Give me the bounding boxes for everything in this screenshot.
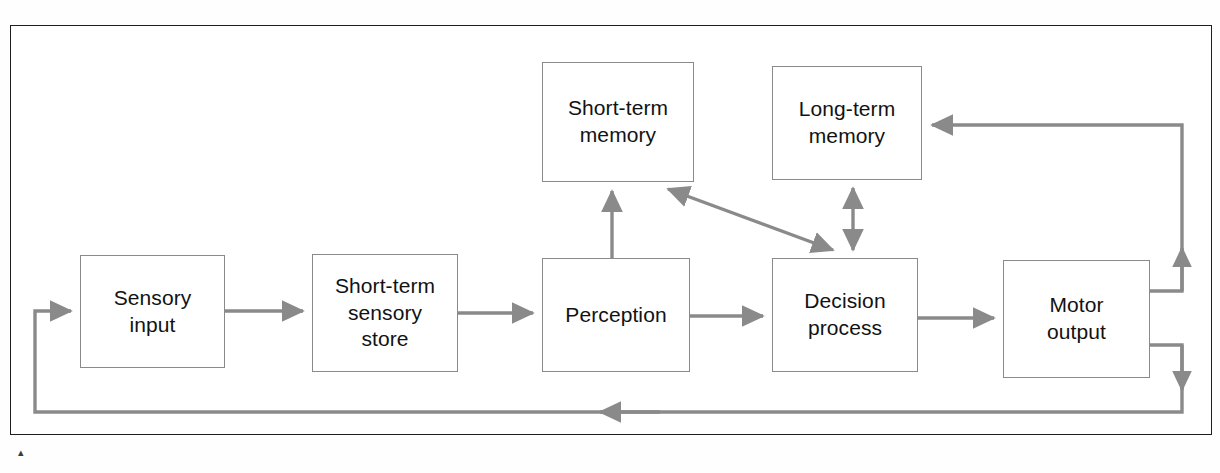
node-sensory-input[interactable]: Sensory input: [80, 255, 225, 368]
node-short-term-memory[interactable]: Short-term memory: [542, 62, 694, 182]
caption-marker: ▴: [18, 448, 25, 457]
node-long-term-memory-label: Long-term memory: [795, 96, 900, 150]
node-short-term-sensory-store-label: Short-term sensory store: [331, 273, 439, 354]
node-perception-label: Perception: [561, 302, 670, 329]
node-motor-output-label: Motor output: [1043, 292, 1110, 346]
node-perception[interactable]: Perception: [542, 258, 690, 372]
node-motor-output[interactable]: Motor output: [1003, 260, 1150, 378]
node-short-term-sensory-store[interactable]: Short-term sensory store: [312, 254, 458, 372]
node-short-term-memory-label: Short-term memory: [564, 95, 672, 149]
node-sensory-input-label: Sensory input: [110, 285, 196, 339]
node-decision-process-label: Decision process: [800, 288, 889, 342]
figure-canvas: Short-term memory Long-term memory Senso…: [0, 0, 1220, 473]
node-decision-process[interactable]: Decision process: [772, 258, 918, 372]
connector-short-term-memory-decision-link: [668, 189, 833, 250]
node-long-term-memory[interactable]: Long-term memory: [772, 66, 922, 180]
